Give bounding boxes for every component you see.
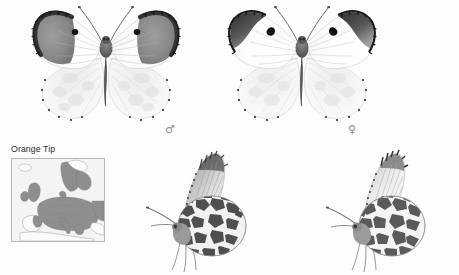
antennae [146,207,177,227]
forewing-discal-spot [134,29,141,35]
eye [354,225,358,229]
distribution-map [11,158,105,242]
female-sex-symbol: ♀ [348,124,356,135]
greece-range [75,225,84,235]
female-upperside-specimen [222,2,382,124]
antennae [326,207,357,228]
right-forewing [306,11,377,69]
male-sex-symbol: ♂ [165,124,175,135]
eye [174,225,178,229]
species-plate: ♂ [0,0,459,275]
ireland-range [21,192,29,202]
left-forewing [228,11,299,69]
male-upperside-specimen [26,2,186,124]
male-underside-specimen [140,142,270,274]
right-forewing [110,11,181,69]
iceland [19,164,32,171]
female-underside-specimen [318,142,448,274]
left-forewing [32,11,103,69]
distribution-map-title: Orange Tip [11,143,55,154]
forewing-discal-spot [72,29,79,35]
